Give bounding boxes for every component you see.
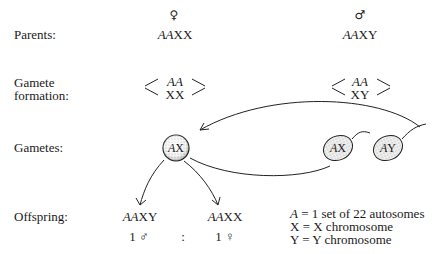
egg-label: AX [164, 142, 188, 155]
sperm-x-tail [352, 132, 370, 139]
sperm-y-tail [402, 124, 426, 139]
offspring-male-genotype: AAXY [115, 210, 165, 223]
fertilization-arc-x [190, 158, 330, 176]
ratio-separator: : [178, 230, 188, 243]
offspring-female-genotype: AAXX [200, 210, 250, 223]
sperm-y-label: AY [376, 142, 400, 155]
sperm-x-label: AX [326, 142, 350, 155]
legend-y-chromosome: Y = Y chromosome [290, 233, 392, 246]
fertilization-arc-y [200, 101, 420, 130]
female-gamete-brackets [145, 79, 205, 95]
offspring-male-ratio: 1 ♂ [124, 230, 154, 243]
offspring-female-ratio: 1 ♀ [210, 230, 240, 243]
arrow-to-male-offspring [140, 160, 164, 205]
male-gamete-brackets [332, 79, 390, 95]
